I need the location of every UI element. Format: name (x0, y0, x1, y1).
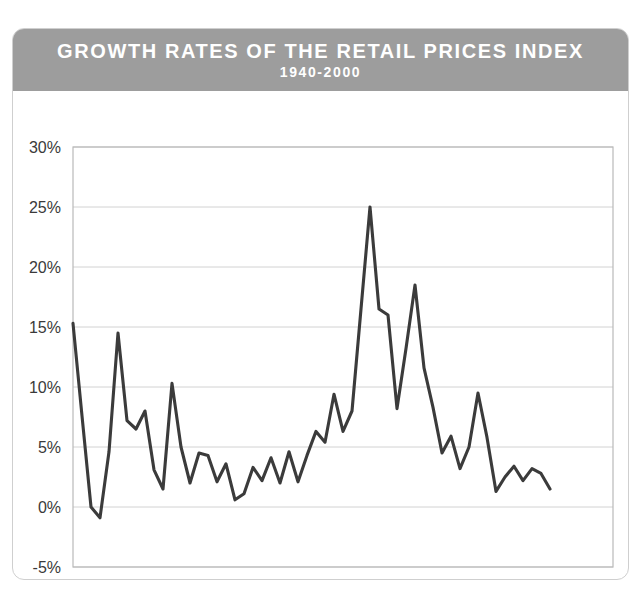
y-axis-tick-label: 20% (29, 259, 61, 276)
data-series-line (73, 207, 550, 518)
plot-border (73, 147, 613, 567)
y-axis-tick-label: 15% (29, 319, 61, 336)
y-axis-labels-group: -5%0%5%10%15%20%25%30% (29, 139, 61, 576)
chart-header: GROWTH RATES OF THE RETAIL PRICES INDEX … (13, 29, 628, 91)
y-axis-tick-label: -5% (33, 559, 61, 576)
y-axis-tick-label: 25% (29, 199, 61, 216)
page-title: GROWTH RATES OF THE RETAIL PRICES INDEX (57, 41, 584, 62)
y-axis-tick-label: 5% (38, 439, 61, 456)
gridlines-group (73, 147, 613, 567)
chart-plot-area: -5%0%5%10%15%20%25%30% 19401945195019551… (13, 91, 629, 580)
y-axis-tick-label: 10% (29, 379, 61, 396)
page-subtitle: 1940-2000 (280, 65, 361, 80)
chart-card: GROWTH RATES OF THE RETAIL PRICES INDEX … (12, 28, 629, 580)
y-axis-tick-label: 0% (38, 499, 61, 516)
line-chart: -5%0%5%10%15%20%25%30% 19401945195019551… (13, 91, 629, 580)
y-axis-tick-label: 30% (29, 139, 61, 156)
